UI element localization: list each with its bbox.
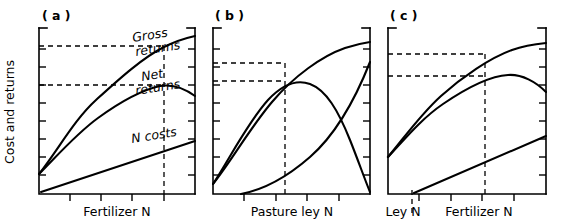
panel-c-x-ticks bbox=[419, 194, 514, 201]
y-axis-label: Cost and returns bbox=[2, 60, 17, 164]
panel-a-tag: ( a ) bbox=[42, 8, 71, 23]
panel-c-gross-returns-curve bbox=[388, 43, 546, 157]
panel-a: ( a ) Cost and returns bbox=[2, 8, 195, 219]
panel-a-x-axis-label: Fertilizer N bbox=[83, 204, 150, 219]
figure-svg: ( a ) Cost and returns bbox=[0, 0, 563, 221]
panel-c-net-returns-curve bbox=[388, 75, 546, 157]
panel-a-net-label: Net returns bbox=[134, 66, 181, 98]
panel-a-gross-label: Gross returns bbox=[131, 25, 181, 59]
panel-b-x-ticks bbox=[244, 194, 339, 201]
panel-a-right-ticks bbox=[188, 49, 195, 175]
figure-container: ( a ) Cost and returns bbox=[0, 0, 563, 221]
panel-a-x-ticks bbox=[70, 194, 164, 201]
panel-b: ( b ) bbox=[213, 8, 370, 219]
panel-b-tag: ( b ) bbox=[215, 8, 244, 23]
panel-c-right-ticks bbox=[539, 49, 546, 175]
panel-c-x-axis-label-fertilizer: Fertilizer N bbox=[445, 204, 512, 219]
panel-c-x-axis-label-ley: Ley N bbox=[385, 204, 420, 219]
panel-b-y-ticks bbox=[213, 49, 220, 175]
panel-a-n-costs-label: N costs bbox=[130, 124, 178, 146]
panel-c-tag: ( c ) bbox=[390, 8, 418, 23]
panel-a-y-ticks bbox=[39, 49, 46, 175]
panel-c-n-costs-line bbox=[414, 136, 546, 193]
panel-b-x-axis-label: Pasture ley N bbox=[251, 204, 333, 219]
panel-b-net-returns-curve bbox=[213, 82, 370, 192]
panel-c: ( c ) bbox=[385, 8, 546, 219]
